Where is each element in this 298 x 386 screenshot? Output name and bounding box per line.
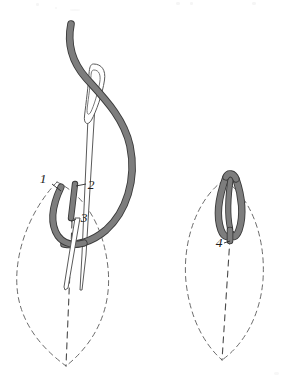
label-2: 2 [88,177,95,192]
completed-loop [219,174,242,241]
needle-tip-over-thread [64,218,80,290]
guide-center-line-right [222,238,230,360]
guide-petal-outline-left [17,182,66,366]
label-4: 4 [216,235,223,250]
label-3: 3 [80,210,88,225]
diagram-canvas: 1 2 3 [0,0,298,386]
needle-point [64,218,80,290]
left-guide-shape [17,182,109,366]
right-guide-shape [185,180,263,360]
embroidery-diagram: 1 2 3 [0,0,298,386]
label-1: 1 [40,171,47,186]
